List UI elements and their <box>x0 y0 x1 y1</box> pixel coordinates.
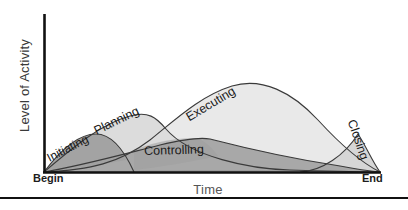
chart-canvas <box>0 0 408 210</box>
activity-chart-figure: Level of Activity Time Begin End Initiat… <box>0 0 408 210</box>
bottom-divider-rule <box>0 197 408 199</box>
